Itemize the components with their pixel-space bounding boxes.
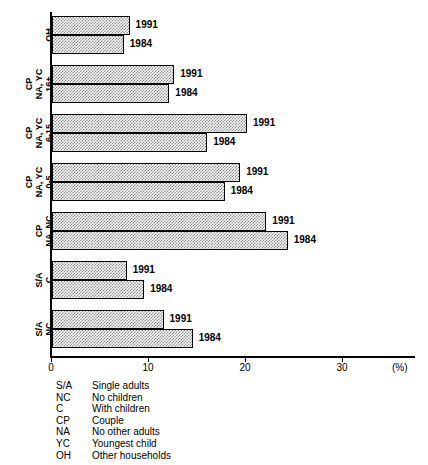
bar-1991[interactable] bbox=[52, 261, 127, 280]
category-label-line: S/A bbox=[34, 261, 44, 299]
bar-series-label: 1984 bbox=[294, 234, 316, 246]
legend-description: Youngest child bbox=[92, 438, 157, 450]
bar-1991[interactable] bbox=[52, 163, 240, 182]
category-label-line: CP bbox=[34, 212, 44, 250]
legend-description: With children bbox=[92, 403, 150, 415]
category-label-line: CP bbox=[24, 163, 34, 201]
x-tick-label-20: 20 bbox=[230, 362, 260, 374]
category-label-line: NC bbox=[44, 310, 54, 348]
bar-series-label: 1991 bbox=[253, 117, 275, 129]
legend-abbreviation: S/A bbox=[56, 380, 92, 392]
plot-area: 0102030 (%) 1991198419911984199119841991… bbox=[0, 0, 428, 372]
bar-series-label: 1984 bbox=[231, 185, 253, 197]
category-label: OH bbox=[44, 16, 54, 54]
bar-1984[interactable] bbox=[52, 182, 225, 201]
category-label: S/ANC bbox=[34, 310, 54, 348]
legend-abbreviation: CP bbox=[56, 415, 92, 427]
bar-chart: 0102030 (%) 1991198419911984199119841991… bbox=[0, 0, 428, 465]
legend-row: S/ASingle adults bbox=[56, 380, 171, 392]
bar-1984[interactable] bbox=[52, 231, 288, 250]
bar-series-label: 1991 bbox=[272, 215, 294, 227]
x-axis-unit-label: (%) bbox=[392, 362, 408, 374]
legend-row: NANo other adults bbox=[56, 426, 171, 438]
legend-row: NCNo children bbox=[56, 392, 171, 404]
bar-series-label: 1984 bbox=[150, 283, 172, 295]
category-label-line: NA, YC bbox=[34, 163, 44, 201]
bar-series-label: 1984 bbox=[213, 136, 235, 148]
x-tick-label-30: 30 bbox=[327, 362, 357, 374]
bar-1984[interactable] bbox=[52, 35, 124, 54]
bar-series-label: 1991 bbox=[180, 68, 202, 80]
bar-series-label: 1991 bbox=[133, 264, 155, 276]
category-label-line: C bbox=[44, 261, 54, 299]
bar-series-label: 1984 bbox=[199, 332, 221, 344]
legend-abbreviation: NA bbox=[56, 426, 92, 438]
bar-series-label: 1991 bbox=[246, 166, 268, 178]
bar-series-label: 1991 bbox=[170, 313, 192, 325]
bar-1991[interactable] bbox=[52, 310, 164, 329]
legend-abbreviation: YC bbox=[56, 438, 92, 450]
bar-1984[interactable] bbox=[52, 280, 144, 299]
category-label-line: CP bbox=[24, 114, 34, 152]
bar-series-label: 1984 bbox=[130, 38, 152, 50]
legend-description: No children bbox=[92, 392, 143, 404]
legend-row: OHOther households bbox=[56, 450, 171, 462]
legend: S/ASingle adultsNCNo childrenCWith child… bbox=[56, 380, 171, 461]
bar-series-label: 1984 bbox=[175, 87, 197, 99]
category-label-line: NA, NC bbox=[44, 212, 54, 250]
legend-row: CPCouple bbox=[56, 415, 171, 427]
category-label-line: OH bbox=[44, 16, 54, 54]
x-tick-label-10: 10 bbox=[133, 362, 163, 374]
bar-1991[interactable] bbox=[52, 16, 130, 35]
category-label: CPNA, YC16+ bbox=[24, 65, 54, 103]
category-label: CPNA, YC0-5 bbox=[24, 163, 54, 201]
legend-description: No other adults bbox=[92, 426, 160, 438]
category-label-line: S/A bbox=[34, 310, 44, 348]
bar-1991[interactable] bbox=[52, 212, 266, 231]
category-label-line: NA, YC bbox=[34, 65, 44, 103]
bar-1984[interactable] bbox=[52, 84, 169, 103]
legend-description: Single adults bbox=[92, 380, 149, 392]
legend-abbreviation: OH bbox=[56, 450, 92, 462]
bar-1984[interactable] bbox=[52, 133, 207, 152]
bar-1991[interactable] bbox=[52, 114, 247, 133]
category-label-line: 16+ bbox=[44, 65, 54, 103]
bar-series-label: 1991 bbox=[136, 19, 158, 31]
bar-1991[interactable] bbox=[52, 65, 174, 84]
legend-row: YCYoungest child bbox=[56, 438, 171, 450]
category-label: CPNA, NC bbox=[34, 212, 54, 250]
legend-row: CWith children bbox=[56, 403, 171, 415]
legend-abbreviation: NC bbox=[56, 392, 92, 404]
category-label-line: 6-15 bbox=[44, 114, 54, 152]
category-label: S/AC bbox=[34, 261, 54, 299]
legend-abbreviation: C bbox=[56, 403, 92, 415]
category-label: CPNA, YC6-15 bbox=[24, 114, 54, 152]
x-tick-label-0: 0 bbox=[36, 362, 66, 374]
bar-1984[interactable] bbox=[52, 329, 193, 348]
category-label-line: NA, YC bbox=[34, 114, 44, 152]
x-axis-line bbox=[50, 356, 415, 358]
legend-description: Other households bbox=[92, 450, 171, 462]
category-label-line: 0-5 bbox=[44, 163, 54, 201]
legend-description: Couple bbox=[92, 415, 124, 427]
category-label-line: CP bbox=[24, 65, 34, 103]
